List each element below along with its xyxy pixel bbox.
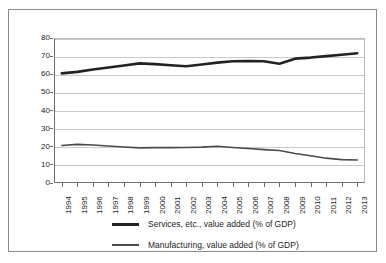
legend-label-manufacturing: Manufacturing, value added (% of GDP) xyxy=(148,240,299,250)
chart-figure: 01020304050607080 1994199519961997199819… xyxy=(0,0,386,263)
x-axis-labels: 1994199519961997199819992000200120022003… xyxy=(54,188,365,216)
x-tick-mark xyxy=(217,183,218,187)
series-layer xyxy=(54,38,365,183)
legend-label-services: Services, etc., value added (% of GDP) xyxy=(148,219,296,229)
legend-swatch-manufacturing xyxy=(112,244,139,246)
legend-swatch-services xyxy=(112,223,139,226)
x-tick-label: 2006 xyxy=(252,196,260,214)
x-tick-mark xyxy=(311,183,312,187)
x-tick-mark xyxy=(171,183,172,187)
x-tick-mark xyxy=(264,183,265,187)
x-tick-label: 2005 xyxy=(236,196,244,214)
y-tick-mark xyxy=(50,110,53,111)
x-tick-label: 2003 xyxy=(205,196,213,214)
x-tick-label: 2004 xyxy=(221,196,229,214)
x-tick-mark xyxy=(140,183,141,187)
x-tick-mark xyxy=(248,183,249,187)
x-tick-label: 1995 xyxy=(81,196,89,214)
legend-item-services: Services, etc., value added (% of GDP) xyxy=(54,216,365,232)
legend-item-manufacturing: Manufacturing, value added (% of GDP) xyxy=(54,237,365,253)
x-tick-label: 2008 xyxy=(283,196,291,214)
x-tick-mark xyxy=(357,183,358,187)
y-tick-label: 20 xyxy=(24,143,50,151)
x-tick-label: 1994 xyxy=(65,196,73,214)
y-tick-label: 70 xyxy=(24,52,50,60)
x-tick-mark xyxy=(279,183,280,187)
y-tick-label: 80 xyxy=(24,34,50,42)
x-tick-mark xyxy=(186,183,187,187)
y-tick-label: 40 xyxy=(24,107,50,115)
x-tick-mark xyxy=(326,183,327,187)
y-tick-mark xyxy=(50,164,53,165)
x-tick-mark xyxy=(62,183,63,187)
x-tick-label: 2011 xyxy=(330,197,338,214)
y-tick-label: 10 xyxy=(24,161,50,169)
x-tick-label: 1998 xyxy=(127,196,135,214)
y-tick-mark xyxy=(50,146,53,147)
y-tick-label: 50 xyxy=(24,88,50,96)
x-tick-mark xyxy=(233,183,234,187)
chart-legend: Services, etc., value added (% of GDP) M… xyxy=(54,216,365,256)
x-tick-mark xyxy=(93,183,94,187)
x-tick-label: 1999 xyxy=(143,196,151,214)
x-tick-mark xyxy=(77,183,78,187)
x-tick-label: 2001 xyxy=(174,196,182,214)
x-tick-mark xyxy=(295,183,296,187)
y-tick-mark xyxy=(50,56,53,57)
x-tick-label: 1997 xyxy=(112,196,120,214)
y-tick-mark xyxy=(50,183,53,184)
x-tick-label: 2012 xyxy=(345,196,353,214)
x-tick-label: 2013 xyxy=(361,196,369,214)
y-tick-mark xyxy=(50,74,53,75)
x-tick-label: 2010 xyxy=(314,196,322,214)
y-tick-label: 30 xyxy=(24,125,50,133)
x-tick-label: 2009 xyxy=(299,196,307,214)
x-tick-mark xyxy=(342,183,343,187)
figure-border: 01020304050607080 1994199519961997199819… xyxy=(8,9,377,252)
x-tick-mark xyxy=(202,183,203,187)
x-tick-mark xyxy=(124,183,125,187)
y-tick-mark xyxy=(50,92,53,93)
x-tick-label: 2000 xyxy=(159,196,167,214)
series-line xyxy=(62,144,357,160)
y-tick-label: 0 xyxy=(24,179,50,187)
series-line xyxy=(62,53,357,73)
y-tick-mark xyxy=(50,38,53,39)
y-axis: 01020304050607080 xyxy=(20,38,50,183)
x-tick-label: 1996 xyxy=(96,196,104,214)
x-tick-label: 2002 xyxy=(190,196,198,214)
y-tick-label: 60 xyxy=(24,70,50,78)
x-tick-label: 2007 xyxy=(267,196,275,214)
y-tick-mark xyxy=(50,128,53,129)
x-tick-mark xyxy=(155,183,156,187)
x-tick-mark xyxy=(108,183,109,187)
